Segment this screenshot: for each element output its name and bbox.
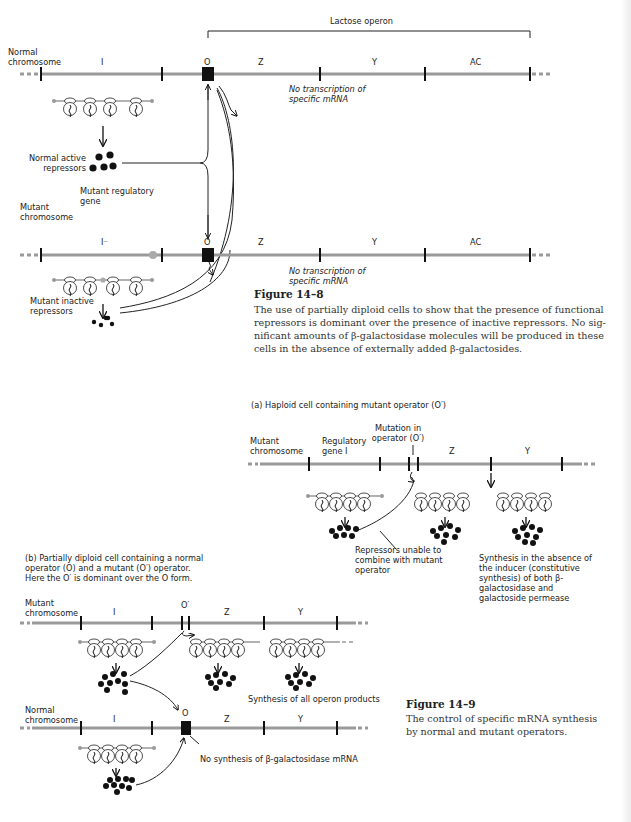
panel-a-repressor-synthesis [306,493,384,539]
panel-a-repressor-note: Repressors unable to combine with mutant… [355,545,445,575]
mutant-gene-Z-label: Z [258,237,264,247]
panel-b-y-synthesis [270,639,325,691]
panel-b-title: (b) Partially diploid cell containing a … [25,553,215,583]
panel-b-z-synthesis [190,639,245,691]
panel-b-mutant-gene-I-label: I [113,607,115,617]
mutant-gene-Y-label: Y [372,237,377,247]
gene-Z-label: Z [258,57,264,67]
figure-14-8-caption: The use of partially diploid cells to sh… [254,303,606,355]
caption-line: The use of partially diploid cells to sh… [254,303,606,316]
figure-14-9-caption: The control of specific mRNA synthesis b… [406,712,597,738]
caption-line: by normal and mutant operators. [406,725,597,738]
caption-line: nificant amounts of β-galactosidase mole… [254,329,606,342]
mutant-gene-AC-label: AC [470,237,481,247]
mutant-gene-O-label: O [204,237,210,247]
figure-14-8-title: Figure 14–8 [254,288,323,300]
mutant-inactive-repressors-label: Mutant inactive repressors [30,296,96,316]
panel-a-z-synthesis [415,493,470,545]
panel-b-mutant-gene-Z-label: Z [224,607,230,617]
lactose-operon-label: Lactose operon [330,16,393,26]
figure-14-9-title: Figure 14–9 [406,698,475,710]
panel-a-gene-Y-label: Y [525,446,530,456]
mutant-regulatory-gene-label: Mutant regulatory gene [80,186,170,206]
panel-b-normal-chromosome-label: Normal chromosome [25,705,80,725]
panel-b-normal-gene-O-label: O [182,708,188,718]
caption-line: repressors is dominant over the presence… [254,316,606,329]
panel-b-no-synthesis-note: No synthesis of β-galactosidase mRNA [200,754,358,764]
gene-I-minus-label: I⁻ [101,237,108,247]
panel-a-title: (a) Haploid cell containing mutant opera… [251,400,446,410]
panel-a-chromosome-label: Mutant chromosome [250,436,300,456]
panel-b-mutant-chromosome-label: Mutant chromosome [25,598,80,618]
panel-a-regulatory-gene-label: Regulatory gene I [322,436,372,456]
panel-b-synthesis-note: Synthesis of all operon products [248,694,380,704]
panel-b-normal-gene-Z-label: Z [224,714,230,724]
panel-b-mutant-gene-Y-label: Y [298,607,303,617]
panel-a-mutation-label: Mutation in operator (O′) [370,423,426,443]
panel-b-normal-gene-Y-label: Y [298,714,303,724]
normal-no-transcription-note: No transcription of specific mRNA [289,84,379,104]
textbook-page: Lactose operon Normal chromosome I O Z Y… [0,0,631,822]
gene-O-label: O [204,57,210,67]
panel-a-y-synthesis [497,493,552,546]
caption-line: The control of specific mRNA synthesis [406,712,597,725]
gene-AC-label: AC [470,57,481,67]
normal-chromosome-line-14-8 [20,67,552,81]
mutant-chromosome-label: Mutant chromosome [20,202,80,222]
lactose-operon-bracket [208,31,530,38]
panel-b-normal-repressor-synthesis [78,745,156,795]
mutant-chromosome-line-14-8 [20,248,552,275]
normal-chromosome-label: Normal chromosome [8,47,68,67]
panel-b-mutant-gene-O-prime-label: O′ [181,600,189,610]
gene-Y-label: Y [372,57,377,67]
mutant-no-transcription-note: No transcription of specific mRNA [289,266,379,286]
panel-b-title-line: operator (O) and a mutant (O′) operator. [25,563,215,573]
panel-a-gene-Z-label: Z [449,446,455,456]
panel-b-normal-chromosome [20,721,368,785]
panel-b-normal-gene-I-label: I [113,714,115,724]
panel-b-title-line: (b) Partially diploid cell containing a … [25,553,215,563]
gene-I-label: I [101,57,103,67]
panel-b-title-line: Here the O′ is dominant over the O form. [25,573,215,583]
panel-a-synthesis-note: Synthesis in the absence of the inducer … [479,553,599,603]
normal-active-repressors-label: Normal active repressors [24,153,86,173]
caption-line: cells in the absence of externally added… [254,342,606,355]
